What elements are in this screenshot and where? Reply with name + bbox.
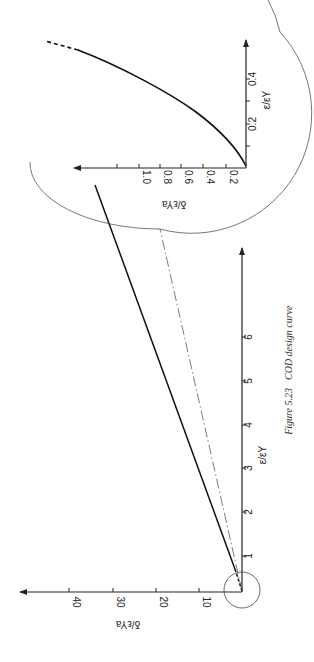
inset-x-tick-0.4: 0.4 <box>247 72 258 86</box>
main-chart: 1 2 3 4 5 6 ε/εY 10 20 30 40 δ/εYa <box>20 185 268 630</box>
main-x-tick-labels: 1 2 3 4 5 6 <box>243 334 254 559</box>
main-x-tick-4: 4 <box>243 422 254 428</box>
inset-y-axis-label: δ/εYa <box>161 199 186 210</box>
figure-title: COD design curve <box>283 305 294 380</box>
inset-dashed-extension <box>45 41 78 50</box>
inset-y-tick-0.2: 0.2 <box>228 170 239 184</box>
main-y-axis-label: δ/εYa <box>115 619 140 630</box>
inset-chart: 0.2 0.4 ε/εY 0.2 0.4 0.6 0.8 1.0 δ/εYa <box>30 0 312 233</box>
cod-design-curve-figure: 1 2 3 4 5 6 ε/εY 10 20 30 40 δ/εYa <box>0 0 314 662</box>
dash-dot-projection-line <box>160 229 242 591</box>
inset-y-tick-0.4: 0.4 <box>205 170 216 184</box>
main-y-tick-labels: 10 20 30 40 <box>71 596 212 608</box>
main-x-tick-3: 3 <box>243 465 254 471</box>
main-x-tick-1: 1 <box>243 553 254 559</box>
main-y-tick-20: 20 <box>158 596 169 608</box>
main-x-tick-5: 5 <box>243 378 254 384</box>
inset-x-tick-0.2: 0.2 <box>247 117 258 131</box>
main-x-tick-2: 2 <box>243 509 254 515</box>
main-x-tick-6: 6 <box>243 334 254 340</box>
inset-y-tick-0.6: 0.6 <box>183 170 194 184</box>
inset-design-curve <box>78 50 246 166</box>
main-design-line <box>95 185 236 572</box>
main-y-tick-40: 40 <box>71 596 82 608</box>
main-x-axis-label: ε/εY <box>257 445 268 464</box>
main-y-tick-30: 30 <box>115 596 126 608</box>
inset-y-tick-0.8: 0.8 <box>162 170 173 184</box>
figure-number: Figure 5.23 <box>283 388 294 436</box>
inset-y-tick-1.0: 1.0 <box>141 170 152 184</box>
main-y-tick-10: 10 <box>201 596 212 608</box>
inset-x-axis-label: ε/εY <box>261 90 272 109</box>
figure-caption: Figure 5.23 COD design curve <box>283 305 294 436</box>
